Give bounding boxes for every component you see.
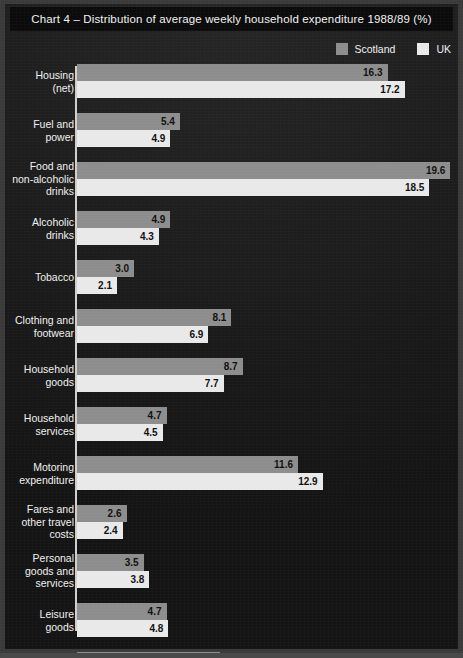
bar-value-label: 8.1 [212, 312, 226, 323]
bar-value-label: 6.9 [189, 329, 203, 340]
bar-row: 5.4 [77, 113, 180, 130]
bar-scotland[interactable]: 4.9 [77, 211, 170, 228]
bar-value-label: 3.5 [125, 557, 139, 568]
category-label: Housing (net) [0, 69, 74, 94]
bar-row: 4.3 [77, 228, 159, 245]
bar-group: Housing (net)16.317.2 [0, 64, 463, 98]
bar-group: Household goods8.77.7 [0, 358, 463, 392]
category-label: Leisure goods [0, 608, 74, 633]
bar-value-label: 5.4 [161, 116, 175, 127]
bar-group: Food and non-alcoholic drinks19.618.5 [0, 162, 463, 196]
bar-value-label: 18.5 [405, 182, 424, 193]
bar-uk[interactable]: 17.2 [77, 81, 405, 98]
category-label: Household goods [0, 363, 74, 388]
bar-group: Fuel and power5.44.9 [0, 113, 463, 147]
bar-scotland[interactable]: 8.1 [77, 309, 231, 326]
chart-page: Chart 4 – Distribution of average weekly… [0, 0, 463, 658]
legend-swatch-uk [417, 43, 429, 55]
category-label: Food and non-alcoholic drinks [0, 160, 74, 198]
bar-value-label: 2.4 [104, 525, 118, 536]
bar-row: 4.7 [77, 407, 167, 424]
legend-item-uk: UK [417, 43, 451, 55]
bar-value-label: 4.5 [144, 427, 158, 438]
bar-value-label: 12.9 [298, 476, 317, 487]
bar-value-label: 3.8 [130, 574, 144, 585]
bar-value-label: 2.6 [108, 508, 122, 519]
page-title: Chart 4 – Distribution of average weekly… [31, 13, 431, 25]
bar-row: 3.0 [77, 260, 134, 277]
bar-group: Leisure goods4.74.8 [0, 603, 463, 637]
bar-row: 19.6 [77, 162, 450, 179]
bar-uk[interactable]: 6.9 [77, 326, 208, 343]
bar-scotland[interactable]: 3.5 [77, 554, 144, 571]
bar-group: Alcoholic drinks4.94.3 [0, 211, 463, 245]
bar-row: 4.8 [77, 620, 168, 637]
bar-row: 17.2 [77, 81, 405, 98]
bar-row: 4.9 [77, 211, 170, 228]
bar-scotland[interactable]: 4.7 [77, 603, 167, 620]
bar-scotland[interactable]: 5.4 [77, 113, 180, 130]
bar-row: 2.6 [77, 505, 127, 522]
bar-row: 16.3 [77, 64, 388, 81]
bar-row: 8.7 [77, 358, 243, 375]
bar-group: Clothing and footwear8.16.9 [0, 309, 463, 343]
bar-chart: Housing (net)16.317.2Fuel and power5.44.… [0, 64, 463, 642]
bar-scotland[interactable]: 2.6 [77, 505, 127, 522]
bar-scotland[interactable]: 4.7 [77, 407, 167, 424]
bar-value-label: 8.7 [224, 361, 238, 372]
bar-row: 4.5 [77, 424, 163, 441]
bar-group: Household services4.74.5 [0, 407, 463, 441]
bar-uk[interactable]: 2.4 [77, 522, 123, 539]
bar-value-label: 7.7 [205, 378, 219, 389]
bar-uk[interactable]: 4.8 [77, 620, 168, 637]
bar-uk[interactable]: 3.8 [77, 571, 149, 588]
category-label: Motoring expenditure [0, 461, 74, 486]
value-axis-line [75, 66, 77, 631]
bar-uk[interactable]: 7.7 [77, 375, 224, 392]
bar-group-list: Housing (net)16.317.2Fuel and power5.44.… [0, 64, 463, 658]
chart-title-bar: Chart 4 – Distribution of average weekly… [10, 7, 453, 31]
bar-row: 3.5 [77, 554, 144, 571]
category-label: Personal goods and services [0, 552, 74, 590]
bar-uk[interactable]: 18.5 [77, 179, 429, 196]
bar-uk[interactable]: 4.3 [77, 228, 159, 245]
bar-row: 8.1 [77, 309, 231, 326]
bar-scotland[interactable]: 3.0 [77, 260, 134, 277]
bar-value-label: 4.7 [148, 410, 162, 421]
bar-scotland[interactable]: 11.6 [77, 456, 298, 473]
bar-group: Fares and other travel costs2.62.4 [0, 505, 463, 539]
legend-label-uk: UK [436, 43, 451, 55]
page-bottom-edge [0, 653, 463, 658]
bar-row: 2.1 [77, 277, 117, 294]
bar-scotland[interactable]: 16.3 [77, 64, 388, 81]
bar-row: 6.9 [77, 326, 208, 343]
bar-scotland[interactable]: 19.6 [77, 162, 450, 179]
legend-label-scotland: Scotland [355, 43, 396, 55]
bar-row: 12.9 [77, 473, 323, 490]
category-label: Clothing and footwear [0, 314, 74, 339]
bar-scotland[interactable]: 8.7 [77, 358, 243, 375]
category-label: Fares and other travel costs [0, 503, 74, 541]
bar-value-label: 11.6 [274, 459, 293, 470]
chart-legend: Scotland UK [336, 43, 451, 55]
bar-value-label: 4.3 [140, 231, 154, 242]
bar-value-label: 2.1 [98, 280, 112, 291]
bar-value-label: 4.8 [149, 623, 163, 634]
bar-value-label: 4.9 [151, 133, 165, 144]
bar-group: Motoring expenditure11.612.9 [0, 456, 463, 490]
bar-uk[interactable]: 4.9 [77, 130, 170, 147]
bar-row: 4.7 [77, 603, 167, 620]
bar-row: 18.5 [77, 179, 429, 196]
legend-item-scotland: Scotland [336, 43, 396, 55]
bar-value-label: 3.0 [115, 263, 129, 274]
bar-uk[interactable]: 4.5 [77, 424, 163, 441]
legend-swatch-scotland [336, 43, 348, 55]
bar-row: 4.9 [77, 130, 170, 147]
bar-group: Tobacco3.02.1 [0, 260, 463, 294]
category-label: Tobacco [0, 271, 74, 284]
bar-uk[interactable]: 2.1 [77, 277, 117, 294]
bar-value-label: 4.9 [151, 214, 165, 225]
bar-value-label: 4.7 [148, 606, 162, 617]
category-label: Fuel and power [0, 118, 74, 143]
bar-uk[interactable]: 12.9 [77, 473, 323, 490]
